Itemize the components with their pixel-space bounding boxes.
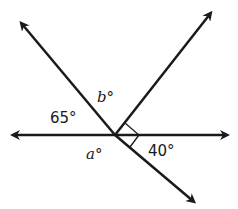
angle-label-40: 40° <box>148 142 175 160</box>
angle-label-b: b° <box>97 88 114 106</box>
angle-label-a: a° <box>86 145 102 163</box>
angle-diagram: 65° b° a° 40° <box>0 0 238 209</box>
angle-label-65: 65° <box>50 109 77 127</box>
ray-ne <box>115 14 210 135</box>
